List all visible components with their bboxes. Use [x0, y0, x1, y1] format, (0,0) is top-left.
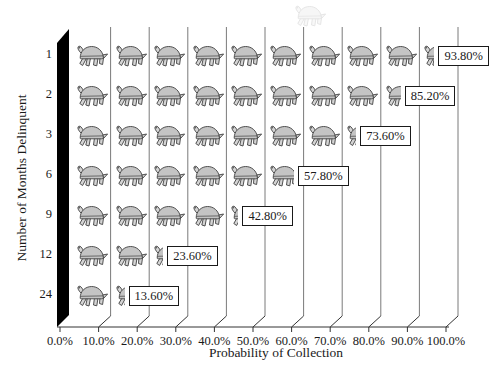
turtle-icon-wrap: [74, 82, 108, 112]
turtle-icon: [228, 42, 262, 68]
turtle-icon: [344, 82, 378, 108]
turtle-icon-wrap: [306, 42, 340, 72]
turtle-icon-wrap: [113, 42, 147, 72]
partial-turtle-icon: [113, 282, 125, 308]
turtle-icon: [306, 82, 340, 108]
turtle-icon: [113, 202, 147, 228]
gridline-base-diagonal: [253, 316, 265, 327]
value-label: 93.80%: [438, 46, 489, 66]
turtle-icon: [383, 82, 401, 108]
turtle-icon: [113, 242, 147, 268]
faint-turtle-icon: [292, 2, 318, 22]
turtle-icon: [74, 162, 108, 188]
value-label: 23.60%: [167, 246, 218, 266]
turtle-icon: [344, 42, 378, 68]
partial-turtle-icon: [228, 202, 238, 228]
y-tick-label: 12: [28, 247, 52, 262]
turtle-icon-wrap: [267, 42, 301, 72]
y-tick-label: 9: [28, 207, 52, 222]
turtle-icon-wrap: [113, 122, 147, 152]
turtle-icon: [267, 82, 301, 108]
turtle-icon: [228, 122, 262, 148]
turtle-icon-wrap: [190, 82, 224, 112]
gridline-base-diagonal: [176, 316, 188, 327]
partial-turtle-icon: [421, 42, 434, 68]
turtle-icon: [292, 2, 326, 28]
turtle-icon: [421, 42, 434, 68]
gridline-base-diagonal: [330, 316, 342, 327]
turtle-icon-wrap: [228, 122, 262, 152]
turtle-icon-wrap: [267, 122, 301, 152]
turtle-icon: [267, 42, 301, 68]
partial-turtle-icon: [151, 242, 163, 268]
turtle-icon-wrap: [151, 42, 185, 72]
turtle-icon: [74, 282, 108, 308]
turtle-icon-wrap: [344, 42, 378, 72]
turtle-icon-wrap: [151, 122, 185, 152]
y-tick-label: 24: [28, 287, 52, 302]
gridline-base-diagonal: [446, 316, 458, 327]
turtle-icon-wrap: [190, 202, 224, 232]
turtle-icon: [228, 82, 262, 108]
turtle-icon-wrap: [113, 202, 147, 232]
partial-turtle-icon: [383, 82, 401, 108]
turtle-icon: [151, 202, 185, 228]
turtle-icon-wrap: [113, 242, 147, 272]
gridline-base-diagonal: [369, 316, 381, 327]
gridline-base-diagonal: [99, 316, 111, 327]
turtle-icon-wrap: [228, 82, 262, 112]
gridline-base-diagonal: [214, 316, 226, 327]
turtle-icon-wrap: [151, 82, 185, 112]
turtle-icon: [113, 282, 125, 308]
turtle-icon: [190, 162, 224, 188]
y-tick-label: 6: [28, 167, 52, 182]
turtle-icon-wrap: [74, 122, 108, 152]
turtle-icon: [74, 202, 108, 228]
turtle-icon: [190, 122, 224, 148]
turtle-icon-wrap: [306, 82, 340, 112]
y-tick-label: 2: [28, 87, 52, 102]
turtle-icon-wrap: [267, 82, 301, 112]
value-label: 57.80%: [298, 166, 349, 186]
turtle-icon-wrap: [74, 42, 108, 72]
value-label: 73.60%: [360, 126, 411, 146]
turtle-icon: [74, 122, 108, 148]
turtle-icon-wrap: [113, 162, 147, 192]
turtle-icon-wrap: [74, 202, 108, 232]
turtle-icon-wrap: [113, 82, 147, 112]
turtle-icon: [190, 202, 224, 228]
x-tick-label: 100.0%: [418, 334, 474, 349]
turtle-icon-wrap: [228, 42, 262, 72]
turtle-icon-wrap: [74, 162, 108, 192]
gridline-base-diagonal: [407, 316, 419, 327]
turtle-icon: [151, 242, 163, 268]
turtle-icon: [151, 122, 185, 148]
turtle-icon-wrap: [74, 242, 108, 272]
pictograph-chart: Number of Months Delinquent Probability …: [0, 0, 500, 374]
turtle-icon: [74, 42, 108, 68]
turtle-icon: [228, 202, 238, 228]
gridline-base-diagonal: [137, 316, 149, 327]
turtle-icon: [383, 42, 417, 68]
turtle-icon-wrap: [190, 122, 224, 152]
turtle-icon-wrap: [306, 122, 340, 152]
turtle-icon: [151, 82, 185, 108]
turtle-icon-wrap: [74, 282, 108, 312]
value-label: 13.60%: [129, 286, 180, 306]
partial-turtle-icon: [344, 122, 356, 148]
value-label: 42.80%: [242, 206, 293, 226]
gridline-base-diagonal: [292, 316, 304, 327]
turtle-icon: [306, 42, 340, 68]
turtle-icon-wrap: [151, 162, 185, 192]
turtle-icon-wrap: [190, 162, 224, 192]
turtle-icon: [267, 162, 294, 188]
turtle-icon: [151, 162, 185, 188]
turtle-icon: [113, 42, 147, 68]
turtle-icon: [306, 122, 340, 148]
turtle-icon: [267, 122, 301, 148]
turtle-icon: [113, 162, 147, 188]
turtle-icon: [113, 122, 147, 148]
y-tick-label: 3: [28, 127, 52, 142]
turtle-icon-wrap: [383, 42, 417, 72]
turtle-icon: [228, 162, 262, 188]
